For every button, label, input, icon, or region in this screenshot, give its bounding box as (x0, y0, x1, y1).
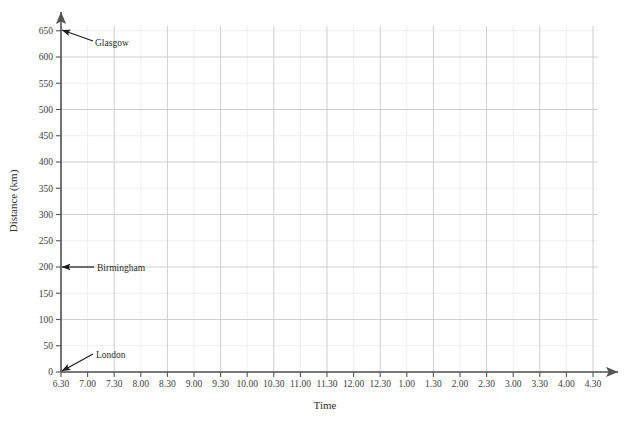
x-tick-label: 9.30 (212, 379, 229, 389)
y-tick-label: 500 (39, 105, 54, 115)
y-tick-label: 300 (39, 210, 54, 220)
y-tick-label: 600 (39, 52, 54, 62)
distance-time-graph: 050100150200250300350400450500550600650 … (0, 0, 626, 427)
y-tick-label: 550 (39, 79, 54, 89)
chart-background (0, 0, 626, 427)
x-tick-label: 4.30 (585, 379, 602, 389)
x-tick-label: 10.30 (263, 379, 285, 389)
x-tick-label: 10.00 (237, 379, 259, 389)
x-tick-label: 11.30 (316, 379, 337, 389)
y-tick-label: 250 (39, 236, 54, 246)
x-tick-label: 9.00 (186, 379, 203, 389)
x-tick-label: 4.00 (558, 379, 575, 389)
y-tick-label: 100 (39, 315, 54, 325)
x-tick-label: 1.00 (398, 379, 415, 389)
annotation-label-glasgow: Glasgow (95, 38, 129, 48)
x-tick-label: 7.30 (106, 379, 123, 389)
x-tick-label: 12.30 (370, 379, 392, 389)
x-tick-label: 12.00 (343, 379, 365, 389)
x-tick-label: 7.00 (79, 379, 96, 389)
annotation-label-london: London (96, 350, 126, 360)
y-tick-label: 350 (39, 184, 54, 194)
y-tick-label: 50 (44, 341, 54, 351)
x-tick-label: 11.00 (290, 379, 311, 389)
x-tick-label: 8.30 (159, 379, 176, 389)
y-tick-label: 450 (39, 131, 54, 141)
y-tick-label: 650 (39, 26, 54, 36)
x-tick-label: 6.30 (53, 379, 70, 389)
x-tick-label: 2.30 (478, 379, 495, 389)
x-tick-label: 2.00 (452, 379, 469, 389)
annotation-label-birmingham: Birmingham (97, 263, 146, 273)
x-tick-label: 8.00 (132, 379, 149, 389)
x-tick-label: 3.00 (505, 379, 522, 389)
y-tick-label: 400 (39, 157, 54, 167)
x-tick-label: 3.30 (531, 379, 548, 389)
y-tick-label: 200 (39, 262, 54, 272)
chart-canvas: 050100150200250300350400450500550600650 … (0, 0, 626, 427)
y-tick-label: 150 (39, 289, 54, 299)
y-tick-label: 0 (48, 367, 53, 377)
x-axis-title: Time (314, 399, 337, 411)
x-tick-label: 1.30 (425, 379, 442, 389)
y-axis-title: Distance (km) (7, 169, 20, 232)
